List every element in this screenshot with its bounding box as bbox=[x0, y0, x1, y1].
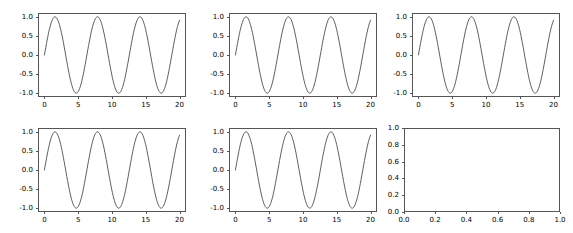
x-tick-label: 20 bbox=[366, 101, 375, 109]
y-tick-label: 1.0 bbox=[388, 124, 399, 132]
x-tick-mark bbox=[371, 97, 372, 99]
y-tick-mark bbox=[410, 36, 412, 37]
x-tick-mark bbox=[337, 97, 338, 99]
y-tick-label: 0.0 bbox=[213, 51, 224, 59]
x-tick-mark bbox=[452, 97, 453, 99]
x-tick-mark bbox=[78, 97, 79, 99]
subplot-r2c3: 0.00.20.40.60.81.00.00.20.40.60.81.0 bbox=[404, 128, 560, 212]
x-tick-label: 20 bbox=[366, 216, 375, 224]
y-tick-mark bbox=[410, 93, 412, 94]
y-tick-mark bbox=[410, 74, 412, 75]
x-tick-label: 10 bbox=[299, 216, 308, 224]
x-tick-mark bbox=[303, 212, 304, 214]
y-tick-label: 0.5 bbox=[22, 147, 33, 155]
x-tick-label: 20 bbox=[175, 101, 184, 109]
x-tick-mark bbox=[404, 212, 405, 214]
data-line bbox=[235, 132, 370, 208]
y-tick-label: 0.8 bbox=[388, 141, 399, 149]
plot-area bbox=[38, 128, 186, 212]
y-tick-mark bbox=[36, 93, 38, 94]
y-tick-label: -1.0 bbox=[19, 204, 33, 212]
x-tick-label: 10 bbox=[108, 101, 117, 109]
y-tick-label: 0.6 bbox=[388, 158, 399, 166]
x-tick-label: 15 bbox=[515, 101, 524, 109]
y-tick-mark bbox=[36, 189, 38, 190]
y-tick-mark bbox=[402, 128, 404, 129]
x-tick-label: 5 bbox=[267, 101, 271, 109]
x-tick-mark bbox=[371, 212, 372, 214]
x-tick-label: 1.0 bbox=[554, 216, 565, 224]
matplotlib-figure: 05101520-1.0-0.50.00.51.005101520-1.0-0.… bbox=[0, 0, 573, 233]
y-tick-mark bbox=[227, 93, 229, 94]
x-tick-label: 15 bbox=[141, 101, 150, 109]
x-tick-mark bbox=[44, 212, 45, 214]
x-tick-label: 0.6 bbox=[492, 216, 503, 224]
y-tick-label: 0.2 bbox=[388, 191, 399, 199]
y-tick-mark bbox=[227, 189, 229, 190]
y-tick-label: 1.0 bbox=[22, 128, 33, 136]
x-tick-mark bbox=[78, 212, 79, 214]
x-tick-label: 0 bbox=[233, 216, 237, 224]
x-tick-mark bbox=[560, 212, 561, 214]
y-tick-mark bbox=[402, 162, 404, 163]
x-tick-mark bbox=[180, 97, 181, 99]
y-tick-label: 0.0 bbox=[22, 166, 33, 174]
y-tick-label: 1.0 bbox=[396, 13, 407, 21]
y-tick-mark bbox=[227, 74, 229, 75]
y-tick-mark bbox=[36, 55, 38, 56]
subplot-r2c1: 05101520-1.0-0.50.00.51.0 bbox=[38, 128, 186, 212]
subplot-r1c1: 05101520-1.0-0.50.00.51.0 bbox=[38, 13, 186, 97]
x-tick-label: 10 bbox=[108, 216, 117, 224]
y-tick-label: 0.0 bbox=[22, 51, 33, 59]
x-tick-label: 0.4 bbox=[461, 216, 472, 224]
y-tick-label: 0.0 bbox=[396, 51, 407, 59]
y-tick-mark bbox=[36, 74, 38, 75]
y-tick-label: -0.5 bbox=[210, 70, 224, 78]
x-tick-mark bbox=[520, 97, 521, 99]
y-tick-label: 0.5 bbox=[396, 32, 407, 40]
y-tick-mark bbox=[36, 36, 38, 37]
x-tick-label: 15 bbox=[141, 216, 150, 224]
y-tick-mark bbox=[227, 151, 229, 152]
y-tick-label: -1.0 bbox=[210, 89, 224, 97]
plot-area bbox=[229, 13, 377, 97]
y-tick-label: -1.0 bbox=[19, 89, 33, 97]
x-tick-label: 0 bbox=[233, 101, 237, 109]
x-tick-label: 0.0 bbox=[398, 216, 409, 224]
y-tick-label: 0.0 bbox=[213, 166, 224, 174]
x-tick-mark bbox=[554, 97, 555, 99]
y-tick-mark bbox=[227, 17, 229, 18]
plot-area bbox=[412, 13, 560, 97]
y-tick-label: 0.4 bbox=[388, 174, 399, 182]
x-tick-mark bbox=[418, 97, 419, 99]
x-tick-label: 15 bbox=[332, 216, 341, 224]
y-tick-mark bbox=[36, 132, 38, 133]
y-tick-label: -1.0 bbox=[393, 89, 407, 97]
x-tick-label: 20 bbox=[549, 101, 558, 109]
y-tick-label: -1.0 bbox=[210, 204, 224, 212]
plot-area bbox=[229, 128, 377, 212]
x-tick-mark bbox=[498, 212, 499, 214]
x-tick-label: 0 bbox=[42, 101, 46, 109]
y-tick-mark bbox=[402, 178, 404, 179]
x-tick-mark bbox=[466, 212, 467, 214]
x-tick-label: 0.8 bbox=[523, 216, 534, 224]
y-tick-label: -0.5 bbox=[210, 185, 224, 193]
y-tick-label: 1.0 bbox=[213, 128, 224, 136]
y-tick-mark bbox=[36, 151, 38, 152]
y-tick-label: -0.5 bbox=[393, 70, 407, 78]
y-tick-label: 1.0 bbox=[213, 13, 224, 21]
x-tick-label: 5 bbox=[267, 216, 271, 224]
y-tick-label: 0.5 bbox=[213, 32, 224, 40]
y-tick-mark bbox=[227, 170, 229, 171]
x-tick-mark bbox=[146, 97, 147, 99]
data-line bbox=[44, 132, 179, 208]
x-tick-label: 10 bbox=[482, 101, 491, 109]
y-tick-mark bbox=[410, 55, 412, 56]
y-tick-mark bbox=[402, 145, 404, 146]
x-tick-label: 10 bbox=[299, 101, 308, 109]
x-tick-mark bbox=[235, 212, 236, 214]
x-tick-mark bbox=[529, 212, 530, 214]
x-tick-mark bbox=[269, 212, 270, 214]
x-tick-mark bbox=[112, 212, 113, 214]
